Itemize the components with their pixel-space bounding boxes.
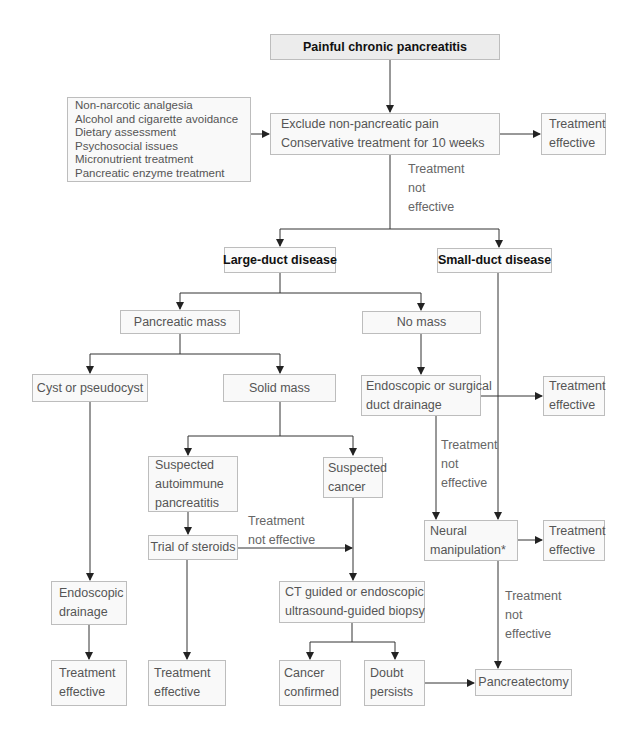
label-line: not effective: [248, 531, 315, 550]
neural-effective-box: Treatment effective: [543, 520, 605, 561]
suspected-cancer-box: Suspected cancer: [323, 457, 383, 498]
initial-step-line: Exclude non-pancreatic pain: [281, 115, 492, 134]
title-text: Painful chronic pancreatitis: [303, 38, 467, 57]
no-mass-text: No mass: [397, 313, 446, 332]
box-line: Endoscopic: [59, 584, 119, 603]
initial-not-effective-label: Treatment not effective: [408, 160, 465, 217]
box-line: effective: [549, 134, 598, 153]
small-duct-text: Small-duct disease: [438, 251, 551, 270]
box-line: manipulation*: [430, 541, 510, 560]
cyst-effective-box: Treatment effective: [51, 660, 127, 706]
solid-mass-box: Solid mass: [223, 374, 336, 402]
box-line: effective: [59, 683, 119, 702]
biopsy-box: CT guided or endoscopic ultrasound-guide…: [279, 581, 425, 623]
list-item: Dietary assessment: [75, 126, 243, 140]
suspected-autoimmune-box: Suspected autoimmune pancreatitis: [148, 456, 238, 512]
box-line: ultrasound-guided biopsy: [285, 602, 417, 621]
list-item: Alcohol and cigarette avoidance: [75, 113, 243, 127]
label-line: Treatment: [408, 160, 465, 179]
label-line: not: [441, 455, 498, 474]
pancreatic-mass-text: Pancreatic mass: [134, 313, 226, 332]
label-line: not: [408, 179, 465, 198]
small-duct-box: Small-duct disease: [437, 248, 552, 273]
list-item: Psychosocial issues: [75, 140, 243, 154]
label-line: effective: [408, 198, 465, 217]
box-line: Treatment: [549, 377, 597, 396]
steroids-not-effective-label: Treatment not effective: [248, 512, 315, 550]
conservative-measures-box: Non-narcotic analgesia Alcohol and cigar…: [67, 97, 251, 182]
initial-effective-box: Treatment effective: [541, 113, 606, 155]
cyst-box: Cyst or pseudocyst: [32, 374, 148, 402]
box-line: effective: [549, 396, 597, 415]
box-line: effective: [549, 541, 597, 560]
pancreatectomy-text: Pancreatectomy: [478, 673, 568, 692]
box-line: effective: [154, 683, 218, 702]
box-line: Treatment: [59, 664, 119, 683]
label-line: Treatment: [505, 587, 562, 606]
box-line: Treatment: [549, 115, 598, 134]
neural-manipulation-box: Neural manipulation*: [424, 520, 518, 561]
box-line: duct drainage: [366, 396, 473, 415]
title-box: Painful chronic pancreatitis: [270, 34, 500, 60]
large-duct-text: Large-duct disease: [223, 251, 337, 270]
duct-drainage-effective-box: Treatment effective: [543, 376, 605, 416]
box-line: autoimmune: [155, 475, 230, 494]
box-line: CT guided or endoscopic: [285, 583, 417, 602]
box-line: Endoscopic or surgical: [366, 377, 473, 396]
box-line: Treatment: [154, 664, 218, 683]
pancreatic-mass-box: Pancreatic mass: [120, 310, 240, 334]
no-mass-box: No mass: [362, 311, 481, 334]
trial-steroids-text: Trial of steroids: [151, 538, 236, 557]
treatment-algorithm-flowchart: Painful chronic pancreatitis Non-narcoti…: [0, 0, 642, 741]
box-line: cancer: [328, 478, 375, 497]
label-line: Treatment: [441, 436, 498, 455]
box-line: Suspected: [155, 456, 230, 475]
label-line: effective: [441, 474, 498, 493]
box-line: Suspected: [328, 459, 375, 478]
pancreatectomy-box: Pancreatectomy: [475, 669, 572, 696]
initial-step-line: Conservative treatment for 10 weeks: [281, 134, 492, 153]
endoscopic-drainage-box: Endoscopic drainage: [51, 581, 127, 625]
solid-mass-text: Solid mass: [249, 379, 310, 398]
doubt-persists-box: Doubt persists: [364, 660, 425, 706]
box-line: Cancer: [284, 664, 333, 683]
label-line: effective: [505, 625, 562, 644]
box-line: Treatment: [549, 522, 597, 541]
cancer-confirmed-box: Cancer confirmed: [279, 660, 341, 706]
label-line: Treatment: [248, 512, 315, 531]
list-item: Non-narcotic analgesia: [75, 99, 243, 113]
box-line: persists: [370, 683, 417, 702]
initial-step-box: Exclude non-pancreatic pain Conservative…: [270, 113, 500, 155]
cyst-text: Cyst or pseudocyst: [37, 379, 143, 398]
large-duct-box: Large-duct disease: [224, 247, 336, 273]
list-item: Micronutrient treatment: [75, 153, 243, 167]
box-line: drainage: [59, 603, 119, 622]
box-line: Neural: [430, 522, 510, 541]
steroids-effective-box: Treatment effective: [148, 660, 226, 706]
duct-drainage-box: Endoscopic or surgical duct drainage: [361, 375, 481, 416]
duct-drainage-not-effective-label: Treatment not effective: [441, 436, 498, 493]
list-item: Pancreatic enzyme treatment: [75, 167, 243, 181]
box-line: confirmed: [284, 683, 333, 702]
neural-not-effective-label: Treatment not effective: [505, 587, 562, 644]
trial-steroids-box: Trial of steroids: [148, 535, 238, 560]
box-line: Doubt: [370, 664, 417, 683]
box-line: pancreatitis: [155, 494, 230, 513]
label-line: not: [505, 606, 562, 625]
